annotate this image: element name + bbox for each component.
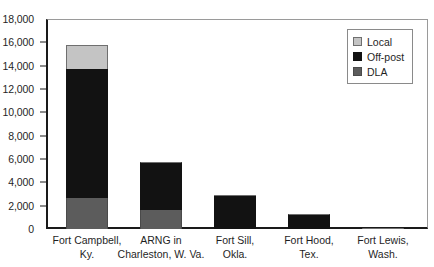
y-tick-label: 8,000 <box>8 130 34 142</box>
y-tick-label: 14,000 <box>2 60 34 72</box>
y-tick-label: 2,000 <box>8 200 34 212</box>
table-row[interactable] <box>140 162 182 229</box>
bar-segment-off-post[interactable] <box>66 69 108 197</box>
x-axis: Fort Campbell, Ky. ARNG in Charleston, W… <box>46 234 428 267</box>
bar-segment-dla[interactable] <box>140 210 182 229</box>
y-tick-label: 12,000 <box>2 83 34 95</box>
y-axis: 18,000 16,000 14,000 12,000 10,000 8,000… <box>0 0 44 267</box>
legend-label: Off-post <box>367 51 404 63</box>
bar-segment-off-post[interactable] <box>214 196 256 229</box>
x-tick-label-fort-lewis: Fort Lewis, Wash. <box>330 234 434 261</box>
x-tick-line: Fort Lewis, <box>330 234 434 248</box>
legend-swatch-dla-icon <box>353 67 362 76</box>
table-row[interactable] <box>214 195 256 229</box>
y-tick-label: 18,000 <box>2 13 34 25</box>
bar-segment-local[interactable] <box>66 45 108 70</box>
legend-item-dla[interactable]: DLA <box>353 64 404 79</box>
bar-segment-dla[interactable] <box>362 228 404 229</box>
table-row[interactable] <box>362 228 404 229</box>
legend-item-local[interactable]: Local <box>353 34 404 49</box>
legend: Local Off-post DLA <box>347 29 413 84</box>
table-row[interactable] <box>66 45 108 229</box>
bar-segment-off-post[interactable] <box>288 214 330 229</box>
legend-label: DLA <box>367 66 387 78</box>
table-row[interactable] <box>288 214 330 229</box>
bar-segment-off-post[interactable] <box>140 162 182 210</box>
legend-swatch-local-icon <box>353 37 362 46</box>
y-tick-label: 10,000 <box>2 106 34 118</box>
stacked-bar-chart: 18,000 16,000 14,000 12,000 10,000 8,000… <box>0 0 434 267</box>
legend-label: Local <box>367 36 392 48</box>
y-tick-label: 6,000 <box>8 153 34 165</box>
x-tick-line: Wash. <box>330 248 434 262</box>
legend-swatch-off-post-icon <box>353 52 362 61</box>
legend-item-off-post[interactable]: Off-post <box>353 49 404 64</box>
bar-segment-dla[interactable] <box>66 198 108 230</box>
y-tick-label: 16,000 <box>2 36 34 48</box>
y-tick-label: 4,000 <box>8 176 34 188</box>
